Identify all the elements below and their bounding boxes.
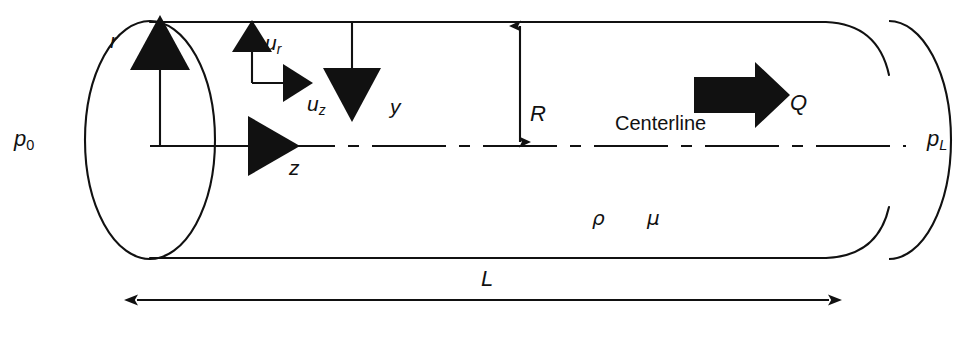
fluid-viscosity-label: μ	[647, 208, 660, 228]
pipe-bottom-wall	[150, 207, 889, 258]
flow-rate-label: Q	[790, 92, 807, 114]
radial-velocity-label: ur	[265, 32, 281, 57]
pipe-radius-label: R	[530, 103, 546, 125]
centerline-text-label: Centerline	[615, 113, 706, 133]
y-axis-arrowhead	[323, 68, 381, 122]
pipe-flow-diagram: p0 pL r z ur uz y R Q L ρ μ Centerline	[0, 0, 975, 340]
fluid-density-label: ρ	[592, 208, 605, 228]
axial-velocity-label: uz	[307, 93, 326, 118]
outlet-pressure-label: pL	[927, 128, 947, 153]
wall-distance-label: y	[390, 96, 401, 117]
pipe-length-label: L	[481, 268, 493, 290]
flow-rate-block-arrow	[694, 62, 790, 128]
inlet-pressure-label: p0	[14, 128, 34, 153]
radial-coordinate-label: r	[110, 30, 117, 51]
axial-coordinate-label: z	[289, 157, 300, 178]
